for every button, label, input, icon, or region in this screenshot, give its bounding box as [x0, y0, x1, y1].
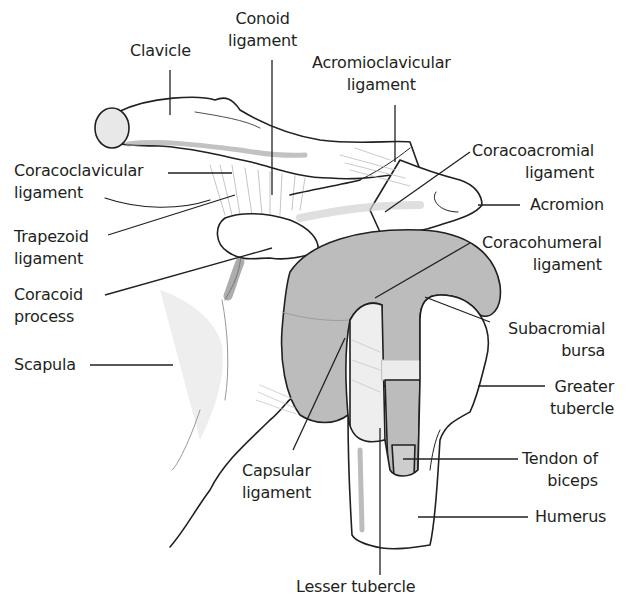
- label-subacromial-bursa: Subacromial bursa: [508, 318, 605, 362]
- label-coracoclavicular-ligament: Coracoclavicular ligament: [14, 160, 143, 204]
- label-greater-tubercle: Greater tubercle: [550, 376, 614, 420]
- label-coracohumeral-ligament: Coracohumeral ligament: [482, 232, 602, 276]
- label-scapula: Scapula: [14, 354, 76, 376]
- label-tendon-of-biceps: Tendon of biceps: [522, 448, 598, 492]
- label-coracoid-process: Coracoid process: [14, 284, 83, 328]
- label-acromioclavicular-ligament: Acromioclavicular ligament: [312, 52, 451, 96]
- label-coracoacromial-ligament: Coracoacromial ligament: [472, 140, 594, 184]
- label-trapezoid-ligament: Trapezoid ligament: [14, 226, 89, 270]
- label-humerus: Humerus: [535, 506, 606, 528]
- label-lesser-tubercle: Lesser tubercle: [296, 576, 415, 598]
- label-acromion: Acromion: [530, 194, 604, 216]
- clavicle-shape: [95, 97, 420, 178]
- label-clavicle: Clavicle: [130, 40, 191, 62]
- label-capsular-ligament: Capsular ligament: [242, 460, 311, 504]
- label-conoid-ligament: Conoid ligament: [228, 8, 297, 52]
